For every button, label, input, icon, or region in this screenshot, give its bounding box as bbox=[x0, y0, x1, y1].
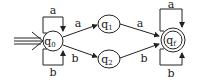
edge-q2-qf-label: b bbox=[140, 52, 147, 65]
qf-loop-a-label: a bbox=[168, 0, 175, 11]
state-q1-label: q bbox=[101, 18, 108, 31]
edge-q0-q1-label: a bbox=[75, 17, 82, 30]
edge-q1-qf-label: a bbox=[137, 17, 144, 30]
automaton-diagram: a b q0 a b q1 q2 a b a b qf bbox=[0, 0, 201, 82]
state-q0-label: q bbox=[44, 35, 51, 48]
q0-loop-a-label: a bbox=[50, 4, 57, 17]
q0-loop-b-label: b bbox=[49, 66, 56, 79]
edge-q0-q2 bbox=[63, 45, 97, 57]
initial-state-arrow bbox=[14, 32, 43, 50]
state-q1: q1 bbox=[98, 15, 120, 33]
state-q0: q0 bbox=[43, 31, 63, 51]
state-q2: q2 bbox=[98, 50, 120, 68]
state-q2-label: q bbox=[101, 53, 108, 66]
state-qf: qf bbox=[161, 28, 185, 52]
edge-q0-q2-label: b bbox=[71, 52, 78, 65]
qf-loop-b-label: b bbox=[167, 67, 174, 80]
state-qf-label: q bbox=[166, 34, 173, 47]
